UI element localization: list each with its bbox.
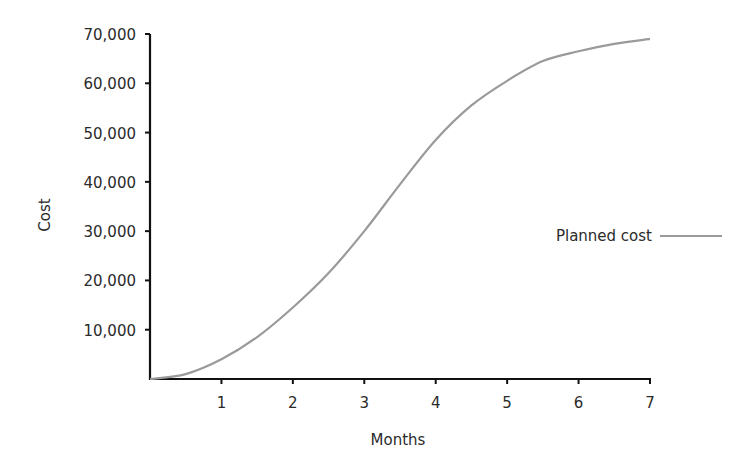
y-axis-title: Cost — [36, 198, 54, 231]
x-axis: 1234567 — [149, 379, 655, 412]
legend-label-planned-cost: Planned cost — [556, 227, 652, 245]
x-tick-label: 3 — [360, 394, 370, 412]
y-tick-label: 40,000 — [84, 174, 137, 192]
plot-area — [150, 39, 650, 379]
y-tick-label: 20,000 — [84, 272, 137, 290]
x-tick-label: 7 — [645, 394, 655, 412]
x-tick-label: 2 — [288, 394, 298, 412]
x-tick-label: 1 — [217, 394, 227, 412]
x-axis-title: Months — [371, 431, 426, 449]
y-tick-label: 30,000 — [84, 223, 137, 241]
x-tick-label: 4 — [431, 394, 441, 412]
line-chart: 10,00020,00030,00040,00050,00060,00070,0… — [0, 0, 756, 476]
x-tick-label: 5 — [502, 394, 512, 412]
y-tick-label: 70,000 — [84, 26, 137, 44]
y-axis: 10,00020,00030,00040,00050,00060,00070,0… — [84, 26, 151, 380]
y-tick-label: 10,000 — [84, 322, 137, 340]
y-tick-label: 60,000 — [84, 75, 137, 93]
x-tick-label: 6 — [574, 394, 584, 412]
legend: Planned cost — [556, 227, 722, 245]
series-line-planned-cost — [150, 39, 650, 379]
y-tick-label: 50,000 — [84, 125, 137, 143]
